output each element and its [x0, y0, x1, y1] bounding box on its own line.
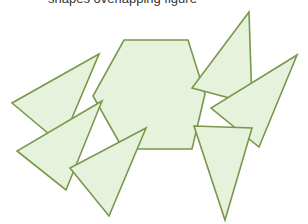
shapes-diagram — [0, 0, 308, 224]
triangle-bottom-right-shape — [194, 126, 252, 220]
hexagon-shape — [93, 40, 205, 149]
